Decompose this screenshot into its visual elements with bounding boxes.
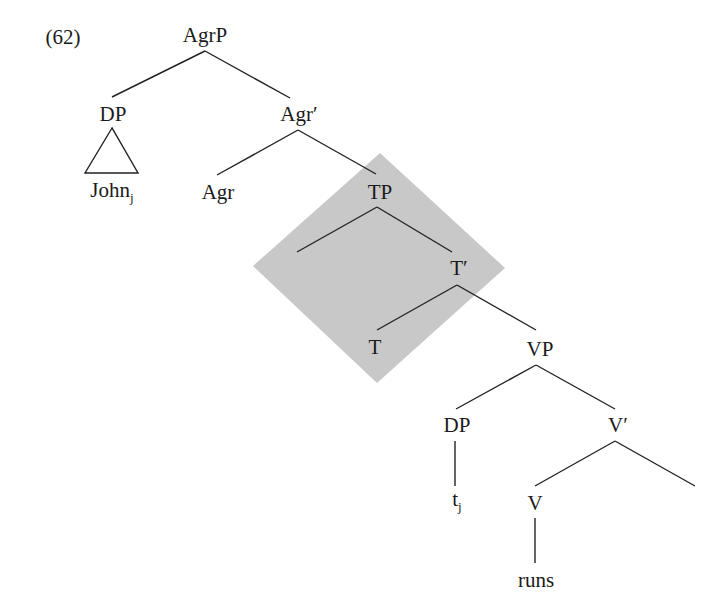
syntax-tree-diagram: (62) AgrPDPAgr′JohnjAgrTPT′TVPDPV′tjVrun… xyxy=(0,0,713,608)
node-label: V xyxy=(527,491,542,515)
tree-node-t: T xyxy=(369,337,382,358)
node-label: AgrP xyxy=(183,23,227,47)
node-label: V′ xyxy=(608,413,628,437)
node-label: runs xyxy=(518,568,554,592)
tree-node-vbar: V′ xyxy=(608,415,628,436)
tree-node-v: V xyxy=(527,493,542,514)
node-label: Agr′ xyxy=(280,102,317,126)
tree-node-tp: TP xyxy=(368,182,393,203)
node-label: T′ xyxy=(450,256,467,280)
tree-node-dp1: DP xyxy=(100,104,127,125)
index-subscript: j xyxy=(130,190,134,205)
node-label: TP xyxy=(368,180,393,204)
tree-node-trace: tj xyxy=(452,489,461,513)
tree-edge xyxy=(457,285,536,330)
example-number: (62) xyxy=(46,27,81,48)
node-label: Agr xyxy=(202,180,235,204)
tree-edge xyxy=(615,441,695,486)
tree-edge xyxy=(205,51,290,98)
tree-edge xyxy=(298,130,376,174)
tree-node-runs: runs xyxy=(518,570,554,591)
node-label: DP xyxy=(100,102,127,126)
node-label: VP xyxy=(527,337,554,361)
tree-node-agrbar: Agr′ xyxy=(280,104,317,125)
node-label: John xyxy=(90,178,130,202)
tree-edge xyxy=(112,51,205,97)
tree-node-agrp: AgrP xyxy=(183,25,227,46)
tree-node-agr: Agr xyxy=(202,182,235,203)
node-label: DP xyxy=(444,413,471,437)
tree-edge xyxy=(535,441,615,486)
tree-node-tbar: T′ xyxy=(450,258,467,279)
tree-edge xyxy=(456,365,536,409)
tree-node-dp2: DP xyxy=(444,415,471,436)
tree-edge xyxy=(217,130,298,175)
dp-triangle xyxy=(85,128,138,173)
index-subscript: j xyxy=(458,499,462,514)
tree-edge xyxy=(536,365,615,409)
tree-lines xyxy=(0,0,713,608)
tree-node-john: Johnj xyxy=(90,180,133,204)
node-label: T xyxy=(369,335,382,359)
tree-node-vp: VP xyxy=(527,339,554,360)
